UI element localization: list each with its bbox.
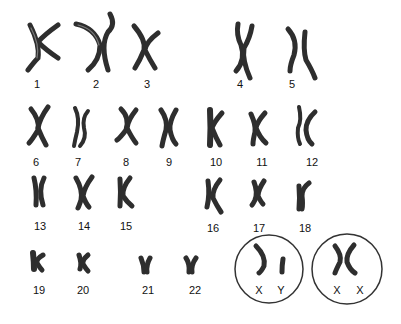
label-7: 7 (75, 156, 81, 168)
karyotype-svg: 1 2 3 4 5 6 7 8 9 (0, 0, 401, 324)
label-13: 13 (34, 220, 46, 232)
label-4: 4 (237, 78, 243, 90)
label-5: 5 (289, 78, 295, 90)
label-1: 1 (34, 78, 40, 90)
chromosome-22: 22 (186, 258, 201, 296)
label-21: 21 (142, 284, 154, 296)
chromosome-12: 12 (298, 107, 318, 168)
chromosome-7: 7 (74, 108, 88, 168)
chromosome-11: 11 (251, 113, 268, 168)
male-circle (235, 235, 303, 303)
sex-chromosomes-male: X Y (235, 235, 303, 303)
label-9: 9 (166, 156, 172, 168)
label-6: 6 (33, 156, 39, 168)
label-12: 12 (306, 156, 318, 168)
chromosome-4: 4 (236, 24, 252, 90)
label-10: 10 (210, 156, 222, 168)
label-8: 8 (123, 156, 129, 168)
chromosome-6: 6 (29, 107, 48, 168)
karyotype-diagram: 1 2 3 4 5 6 7 8 9 (0, 0, 401, 324)
label-14: 14 (78, 220, 90, 232)
chromosome-13: 13 (34, 178, 46, 232)
label-17: 17 (253, 222, 265, 234)
label-2: 2 (93, 78, 99, 90)
label-male-x: X (255, 284, 263, 296)
label-male-y: Y (277, 284, 285, 296)
label-16: 16 (207, 222, 219, 234)
label-19: 19 (33, 284, 45, 296)
chromosome-17: 17 (252, 181, 265, 234)
sex-chromosomes-female: X X (312, 234, 382, 304)
label-female-x2: X (356, 284, 364, 296)
chromosome-19: 19 (33, 253, 45, 296)
label-female-x1: X (333, 284, 341, 296)
label-11: 11 (256, 156, 267, 168)
chromosome-5: 5 (288, 29, 315, 90)
chromosome-3: 3 (134, 26, 158, 90)
label-22: 22 (189, 284, 201, 296)
chromosome-2: 2 (76, 14, 113, 90)
label-18: 18 (299, 222, 311, 234)
chromosome-9: 9 (161, 110, 176, 168)
label-15: 15 (120, 220, 132, 232)
chromosome-8: 8 (117, 109, 136, 168)
chromosome-15: 15 (120, 178, 132, 232)
chromosome-20: 20 (77, 255, 89, 296)
chromosome-21: 21 (141, 258, 154, 296)
female-circle (312, 234, 382, 304)
label-3: 3 (144, 78, 150, 90)
chromosome-16: 16 (207, 180, 221, 234)
chromosome-10: 10 (210, 110, 222, 168)
chromosome-1: 1 (28, 25, 58, 90)
chromosome-18: 18 (299, 183, 311, 234)
label-20: 20 (77, 284, 89, 296)
chromosome-14: 14 (76, 177, 92, 232)
